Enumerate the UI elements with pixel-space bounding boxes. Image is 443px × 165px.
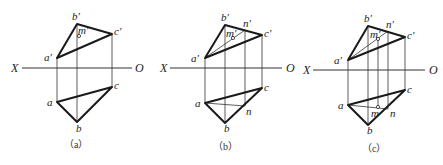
label-a: a — [195, 97, 201, 109]
label-c-prime: c′ — [114, 25, 122, 37]
panel-c: X O b′ n′ a′ c′ m′ a b m n c （c） — [302, 12, 438, 154]
projection-diagram: X O b′ a′ c′ m′ a b c （a） X O b′ n′ — [0, 0, 443, 165]
x-axis-label: X — [10, 61, 19, 75]
caption-b: （b） — [213, 141, 238, 152]
label-n: n — [390, 107, 396, 119]
panel-a: X O b′ a′ c′ m′ a b c （a） — [10, 10, 144, 150]
label-n-prime: n′ — [386, 18, 395, 30]
label-m-prime: m′ — [370, 28, 381, 40]
label-b: b — [224, 122, 230, 134]
label-a: a — [47, 96, 53, 108]
label-c: c — [114, 79, 119, 91]
panel-b: X O b′ n′ a′ c′ m′ a b n c （b） — [159, 11, 295, 152]
o-axis-label: O — [135, 61, 144, 75]
label-m: m — [371, 107, 379, 119]
caption-a: （a） — [64, 139, 88, 150]
label-m-prime: m′ — [78, 24, 89, 36]
label-n: n — [246, 105, 252, 117]
label-b-prime: b′ — [221, 11, 230, 23]
label-c-prime: c′ — [264, 27, 272, 39]
label-b-prime: b′ — [364, 12, 373, 24]
x-axis-label: X — [159, 61, 168, 75]
label-c-prime: c′ — [407, 29, 415, 41]
label-c: c — [407, 83, 412, 95]
label-c: c — [264, 81, 269, 93]
label-a-prime: a′ — [334, 54, 343, 66]
top-view-triangle — [57, 87, 112, 122]
label-m-prime: m′ — [226, 27, 237, 39]
caption-c: （c） — [362, 143, 386, 154]
o-axis-label: O — [286, 61, 295, 75]
x-axis-label: X — [302, 63, 311, 77]
label-b: b — [76, 122, 82, 134]
label-b-prime: b′ — [72, 10, 81, 22]
label-a-prime: a′ — [44, 51, 53, 63]
label-a: a — [338, 99, 344, 111]
o-axis-label: O — [429, 63, 438, 77]
label-a-prime: a′ — [191, 52, 200, 64]
label-b: b — [367, 124, 373, 136]
label-n-prime: n′ — [243, 17, 252, 29]
